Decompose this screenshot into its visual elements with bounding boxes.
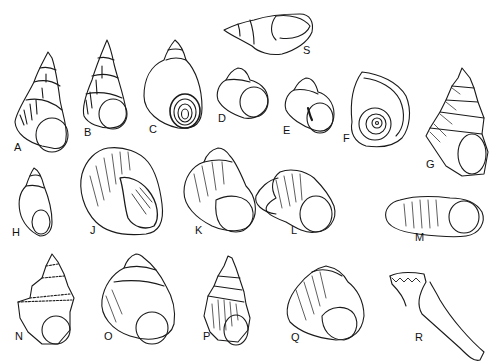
label-e: E	[283, 124, 290, 136]
shell-f	[351, 72, 409, 147]
shell-h	[19, 168, 52, 236]
label-f: F	[343, 132, 350, 144]
shell-g	[426, 68, 488, 176]
label-g: G	[426, 158, 435, 170]
label-a: A	[14, 141, 21, 153]
label-m: M	[415, 231, 424, 243]
shell-e	[285, 78, 334, 133]
shell-a	[15, 52, 68, 152]
shell-d	[217, 68, 268, 118]
label-b: B	[84, 126, 91, 138]
shell-m	[386, 197, 484, 237]
label-h: H	[12, 226, 20, 238]
label-c: C	[149, 123, 157, 135]
shell-c	[144, 40, 202, 128]
label-r: R	[415, 331, 423, 343]
shell-q	[287, 266, 364, 340]
shell-p	[204, 256, 250, 345]
shell-k	[184, 148, 255, 232]
shell-s	[224, 14, 313, 55]
label-j: J	[90, 224, 96, 236]
radula-tooth-r	[390, 273, 484, 361]
label-s: S	[303, 44, 310, 56]
label-q: Q	[291, 331, 300, 343]
label-n: N	[15, 330, 23, 342]
label-p: P	[203, 330, 210, 342]
shell-b	[83, 40, 127, 129]
label-d: D	[218, 112, 226, 124]
shell-plate	[0, 0, 497, 364]
label-l: L	[291, 224, 297, 236]
shell-j	[81, 148, 163, 235]
label-o: O	[104, 330, 113, 342]
shell-n	[18, 254, 74, 344]
label-k: K	[195, 224, 202, 236]
